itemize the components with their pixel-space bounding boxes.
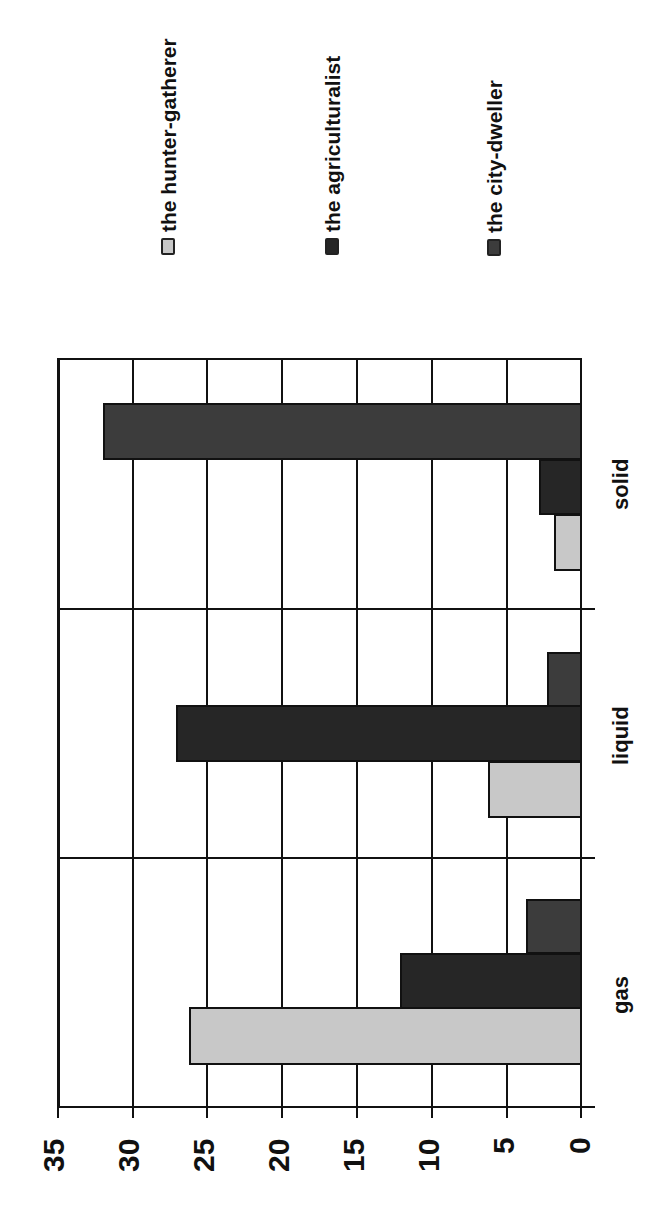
tick-label-20: 20 [264,1139,294,1172]
legend-label-hunter-gatherer: the hunter-gatherer [158,38,179,232]
gridline-30 [132,358,134,1118]
bar-solid-city-dweller [103,403,582,460]
category-label-liquid: liquid [610,706,632,765]
bar-gas-city-dweller [526,899,582,954]
category-separator-liquid-gas [57,857,595,859]
bar-gas-agriculturalist [400,953,582,1009]
category-separator-solid-liquid [57,608,595,610]
legend-swatch-hunter-gatherer [161,238,175,255]
category-label-gas: gas [610,976,632,1014]
category-label-solid: solid [610,459,632,510]
legend-swatch-agriculturalist [325,238,339,255]
tick-label-5: 5 [489,1137,519,1154]
bar-solid-hunter-gatherer [554,514,582,571]
value-axis-line [57,1106,595,1108]
bar-solid-agriculturalist [539,459,582,515]
bar-gas-hunter-gatherer [189,1007,582,1065]
tick-label-15: 15 [339,1139,369,1172]
tick-label-25: 25 [189,1139,219,1172]
tick-label-35: 35 [39,1139,69,1172]
gridline-35 [57,358,59,1118]
legend-label-city-dweller: the city-dweller [484,80,505,233]
tick-label-30: 30 [114,1139,144,1172]
bar-liquid-agriculturalist [176,705,582,762]
tick-label-10: 10 [414,1139,444,1172]
legend-swatch-city-dweller [487,239,501,256]
bar-liquid-hunter-gatherer [488,761,582,818]
legend-label-agriculturalist: the agriculturalist [322,56,343,232]
bar-liquid-city-dweller [547,652,582,707]
tick-label-0: 0 [565,1137,595,1154]
